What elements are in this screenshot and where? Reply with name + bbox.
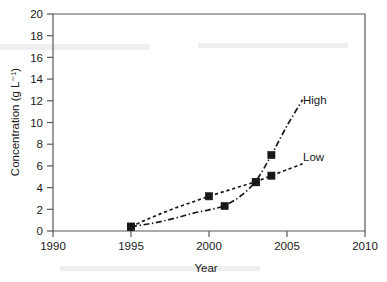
y-tick-label: 8 — [37, 138, 43, 150]
x-tick-label: 2010 — [352, 240, 378, 252]
scan-artifact — [0, 44, 150, 50]
y-tick-label: 14 — [30, 73, 43, 85]
y-tick-label: 2 — [37, 204, 43, 216]
x-axis-title: Year — [194, 262, 217, 274]
x-axis-ticks — [53, 231, 365, 237]
data-point-marker — [252, 179, 259, 186]
data-point-marker — [268, 151, 275, 158]
data-point-marker — [205, 193, 212, 200]
y-tick-label: 16 — [30, 52, 43, 64]
y-axis-tick-labels: 0 2 4 6 8 10 12 14 16 18 20 — [30, 8, 43, 237]
data-point-marker — [268, 172, 275, 179]
y-tick-label: 20 — [30, 8, 43, 20]
series-line-low — [131, 164, 303, 227]
series-label-high: High — [303, 94, 327, 106]
data-point-marker — [221, 202, 228, 209]
x-tick-label: 2000 — [196, 240, 222, 252]
y-tick-label: 18 — [30, 30, 43, 42]
data-point-marker — [127, 223, 134, 230]
y-tick-label: 0 — [37, 225, 43, 237]
scan-artifact — [60, 266, 260, 271]
y-axis-title: Concentration (g L⁻¹) — [9, 68, 21, 176]
series-line-high — [131, 100, 303, 227]
y-tick-label: 6 — [37, 160, 43, 172]
y-tick-label: 12 — [30, 95, 43, 107]
chart-figure: 0 2 4 6 8 10 12 14 16 18 20 1990 1995 20… — [0, 0, 387, 282]
y-tick-label: 4 — [37, 182, 44, 194]
concentration-vs-year-chart: 0 2 4 6 8 10 12 14 16 18 20 1990 1995 20… — [0, 0, 387, 282]
x-tick-label: 1995 — [118, 240, 144, 252]
y-tick-label: 10 — [30, 117, 43, 129]
scan-artifact — [198, 43, 348, 48]
x-tick-label: 2005 — [274, 240, 300, 252]
x-axis-tick-labels: 1990 1995 2000 2005 2010 — [40, 240, 378, 252]
x-tick-label: 1990 — [40, 240, 66, 252]
series-label-low: Low — [303, 151, 325, 163]
